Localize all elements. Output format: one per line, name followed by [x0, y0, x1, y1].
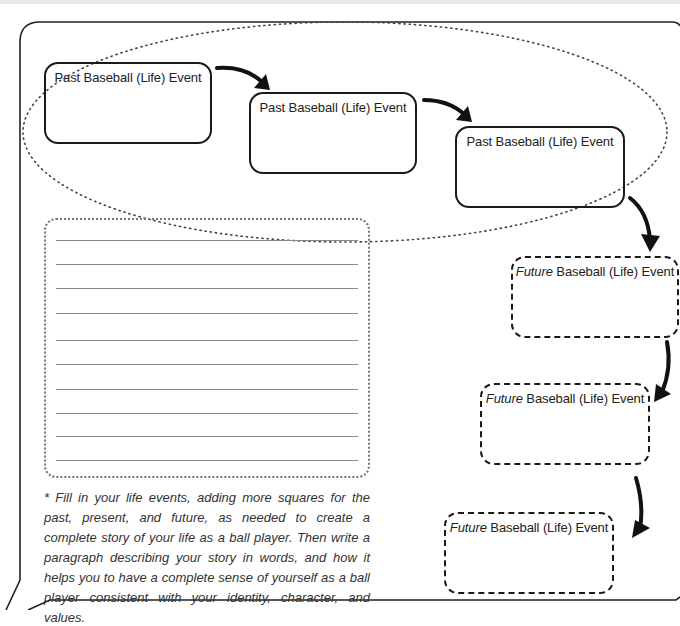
writing-line[interactable]: [56, 413, 358, 414]
writing-line[interactable]: [56, 264, 358, 265]
writing-line[interactable]: [56, 364, 358, 365]
future-event-box-2[interactable]: Future Baseball (Life) Event: [480, 383, 650, 465]
writing-line[interactable]: [56, 340, 358, 341]
future-prefix: Future: [486, 391, 523, 406]
past-event-label: Past Baseball (Life) Event: [251, 100, 415, 115]
future-prefix: Future: [450, 520, 487, 535]
instructions-text: * Fill in your life events, adding more …: [44, 488, 370, 626]
future-prefix: Future: [516, 264, 553, 279]
past-event-box-1[interactable]: Past Baseball (Life) Event: [44, 62, 212, 144]
future-event-box-3[interactable]: Future Baseball (Life) Event: [444, 512, 614, 594]
future-event-box-1[interactable]: Future Baseball (Life) Event: [511, 256, 679, 338]
writing-line[interactable]: [56, 313, 358, 314]
writing-line[interactable]: [56, 389, 358, 390]
writing-line[interactable]: [56, 460, 358, 461]
future-event-label: Future Baseball (Life) Event: [482, 391, 648, 406]
future-event-label: Future Baseball (Life) Event: [446, 520, 612, 535]
future-event-label: Future Baseball (Life) Event: [513, 264, 677, 279]
story-writing-area[interactable]: [44, 218, 370, 478]
past-event-box-2[interactable]: Past Baseball (Life) Event: [249, 92, 417, 174]
writing-line[interactable]: [56, 436, 358, 437]
past-event-label: Past Baseball (Life) Event: [457, 134, 623, 149]
past-event-box-3[interactable]: Past Baseball (Life) Event: [455, 126, 625, 208]
past-event-label: Past Baseball (Life) Event: [46, 70, 210, 85]
writing-line[interactable]: [56, 240, 358, 241]
writing-line[interactable]: [56, 288, 358, 289]
